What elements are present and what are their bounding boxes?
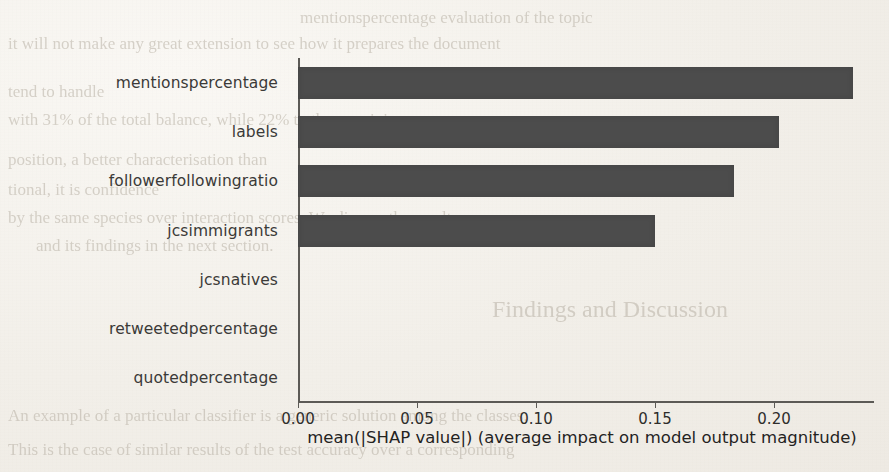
bar-row	[298, 165, 874, 197]
bar-labels	[298, 116, 779, 148]
y-tick-label-retweetedpercentage: retweetedpercentage	[109, 313, 278, 345]
bar-row	[298, 264, 874, 296]
y-tick-label-quotedpercentage: quotedpercentage	[134, 362, 278, 394]
x-axis-title: mean(|SHAP value|) (average impact on mo…	[294, 428, 870, 447]
y-axis-tick-labels: mentionspercentagelabelsfollowerfollowin…	[40, 58, 292, 403]
bar-row	[298, 362, 874, 394]
x-tick-mark	[774, 403, 775, 408]
x-tick-label: 0.05	[400, 410, 433, 428]
bar-row	[298, 116, 874, 148]
y-tick-label-mentionspercentage: mentionspercentage	[116, 67, 278, 99]
x-tick-mark	[655, 403, 656, 408]
bar-followerfollowingratio	[298, 165, 734, 197]
bar-jcsimmigrants	[298, 215, 655, 247]
x-axis-line	[298, 401, 874, 403]
bar-row	[298, 313, 874, 345]
y-tick-label-labels: labels	[232, 116, 278, 148]
x-tick-mark	[298, 403, 299, 408]
plot-area: 0.000.050.100.150.20	[298, 58, 874, 403]
x-tick-mark	[536, 403, 537, 408]
x-tick-mark	[417, 403, 418, 408]
x-tick-label: 0.15	[638, 410, 671, 428]
bar-row	[298, 215, 874, 247]
shap-feature-importance-chart: mentionspercentagelabelsfollowerfollowin…	[40, 16, 889, 472]
bar-mentionspercentage	[298, 67, 853, 99]
y-tick-label-followerfollowingratio: followerfollowingratio	[109, 165, 278, 197]
bar-row	[298, 67, 874, 99]
x-tick-label: 0.20	[757, 410, 790, 428]
x-tick-label: 0.00	[281, 410, 314, 428]
y-tick-label-jcsnatives: jcsnatives	[200, 264, 278, 296]
x-tick-label: 0.10	[519, 410, 552, 428]
y-tick-label-jcsimmigrants: jcsimmigrants	[167, 215, 278, 247]
